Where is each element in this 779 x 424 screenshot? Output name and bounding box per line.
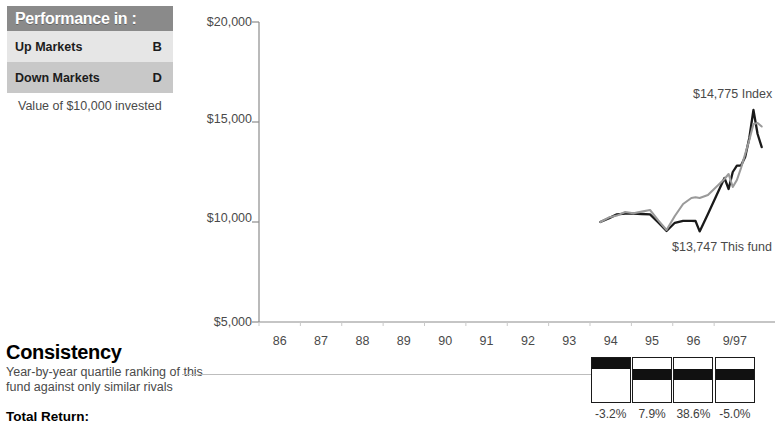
up-markets-grade: B [153,39,162,54]
quartile-return-9-97: -5.0% [712,407,758,421]
x-tick-label-95: 95 [631,334,673,348]
quartile-box-9-97 [715,357,755,403]
consistency-description-line1: Year-by-year quartile ranking of this [6,365,221,380]
down-markets-grade: D [153,70,162,85]
x-tick-label-9-97: 9/97 [714,334,756,348]
quartile-box-96 [673,357,713,403]
quartile-median-line [182,374,614,375]
x-tick-label-89: 89 [383,334,425,348]
total-return-label: Total Return: [6,409,89,424]
quartile-segment-3 [674,380,712,391]
fund-value-annotation: $13,747 This fund [672,240,772,254]
quartile-return-95: 7.9% [629,407,675,421]
quartile-segment-1 [716,358,754,369]
quartile-segment-1 [592,358,630,369]
quartile-segment-3 [633,380,671,391]
quartile-box-94 [591,357,631,403]
x-tick-label-87: 87 [300,334,342,348]
quartile-segment-2 [674,369,712,380]
quartile-segment-2 [633,369,671,380]
quartile-segment-2 [592,369,630,380]
performance-row-down-markets: Down Markets D [7,62,173,93]
up-markets-label: Up Markets [15,40,82,54]
quartile-segment-2 [716,369,754,380]
quartile-return-94: -3.2% [588,407,634,421]
x-tick-label-90: 90 [424,334,466,348]
quartile-segment-1 [633,358,671,369]
consistency-description-line2: fund against only similar rivals [6,380,221,395]
x-tick-label-92: 92 [507,334,549,348]
performance-box-header: Performance in : [7,6,173,31]
chart-series [600,110,761,231]
consistency-section: Consistency Year-by-year quartile rankin… [6,341,221,394]
quartile-segment-3 [716,380,754,391]
quartile-segment-4 [716,391,754,402]
y-tick-label-15000: $15,000 [182,112,252,126]
y-tick-label-10000: $10,000 [182,211,252,225]
x-tick-label-93: 93 [548,334,590,348]
quartile-segment-4 [633,391,671,402]
y-tick-label-20000: $20,000 [182,15,252,29]
quartile-segment-1 [674,358,712,369]
chart-axes [252,22,775,326]
performance-box-title: Performance in : [15,10,136,28]
consistency-heading: Consistency [6,341,221,363]
performance-box: Performance in : Up Markets B Down Marke… [7,6,173,94]
y-tick-label-5000: $5,000 [182,315,252,329]
quartile-segment-4 [674,391,712,402]
quartile-box-95 [632,357,672,403]
performance-row-up-markets: Up Markets B [7,31,173,62]
index-value-annotation: $14,775 Index [693,87,772,101]
x-tick-label-96: 96 [672,334,714,348]
x-tick-label-91: 91 [466,334,508,348]
quartile-segment-3 [592,380,630,391]
x-tick-label-94: 94 [590,334,632,348]
consistency-description: Year-by-year quartile ranking of this fu… [6,365,221,394]
quartile-return-96: 38.6% [670,407,716,421]
value-invested-caption: Value of $10,000 invested [18,99,162,113]
x-tick-label-88: 88 [341,334,383,348]
down-markets-label: Down Markets [15,71,100,85]
x-tick-label-86: 86 [259,334,301,348]
quartile-segment-4 [592,391,630,402]
